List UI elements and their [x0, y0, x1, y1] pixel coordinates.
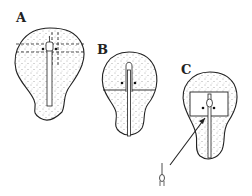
marker-dot	[42, 48, 45, 51]
panel-label-a: A	[15, 10, 27, 25]
primitive-streak	[128, 70, 131, 136]
marker-dot	[213, 107, 216, 110]
primitive-node	[207, 99, 213, 107]
primitive-streak	[47, 44, 52, 106]
panel-label-b: B	[97, 42, 108, 57]
panel-b: B	[97, 42, 157, 136]
embryo-diagram: A B C	[0, 0, 252, 196]
panel-label-c: C	[181, 62, 191, 77]
primitive-node	[46, 42, 53, 51]
marker-dot	[55, 48, 58, 51]
panel-c: C	[160, 62, 237, 186]
marker-dot	[134, 82, 137, 85]
marker-dot	[121, 82, 124, 85]
marker-dot	[202, 107, 205, 110]
isolated-node-fragment	[160, 163, 165, 186]
panel-a: A	[15, 10, 84, 120]
